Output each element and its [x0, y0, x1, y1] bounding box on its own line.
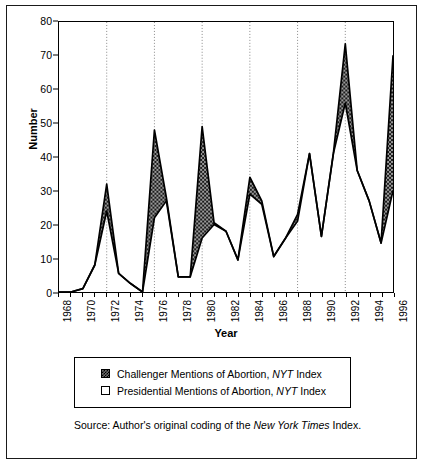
x-tick-mark-1974: [130, 293, 131, 297]
x-tick-mark-1992: [346, 293, 347, 297]
y-tick-label-50: 50: [28, 117, 52, 129]
chart-legend: Challenger Mentions of Abortion, NYT Ind…: [74, 357, 351, 408]
legend-label-challenger-post: Index: [293, 368, 322, 380]
legend-item-challenger: Challenger Mentions of Abortion, NYT Ind…: [75, 365, 350, 382]
x-tick-mark-1985: [262, 293, 263, 297]
x-tick-label-1974: 1974: [134, 300, 145, 322]
chart-block: Number 010203040506: [6, 5, 417, 350]
y-tick-label-20: 20: [28, 219, 52, 231]
x-tick-mark-1977: [166, 293, 167, 297]
x-tick-label-1994: 1994: [374, 300, 385, 322]
x-tick-mark-1979: [190, 293, 191, 297]
legend-label-presidential-post: Index: [297, 385, 326, 397]
chart-svg: [59, 22, 393, 292]
legend-swatch-filled-square-icon: [101, 369, 110, 378]
x-tick-mark-1989: [310, 293, 311, 297]
legend-label-presidential-em: NYT: [276, 385, 297, 397]
source-note-pre: Source: Author's original coding of the: [74, 419, 253, 431]
x-tick-mark-1986: [274, 293, 275, 297]
legend-label-presidential: Presidential Mentions of Abortion, NYT I…: [117, 385, 326, 397]
y-tick-mark-40: [53, 157, 58, 158]
x-tick-label-1972: 1972: [110, 300, 121, 322]
figure-container: Number 010203040506: [0, 0, 424, 466]
y-tick-label-30: 30: [28, 185, 52, 197]
x-tick-mark-1983: [238, 293, 239, 297]
y-tick-mark-80: [53, 21, 58, 22]
legend-item-presidential: Presidential Mentions of Abortion, NYT I…: [75, 382, 350, 399]
x-tick-mark-1969: [70, 293, 71, 297]
x-tick-mark-1981: [214, 293, 215, 297]
x-tick-label-1986: 1986: [278, 300, 289, 322]
y-tick-label-60: 60: [28, 83, 52, 95]
y-tick-mark-60: [53, 89, 58, 90]
x-tick-mark-1973: [118, 293, 119, 297]
x-tick-mark-1968: [58, 293, 59, 297]
x-tick-mark-1980: [202, 293, 203, 297]
x-tick-label-1976: 1976: [158, 300, 169, 322]
legend-label-challenger: Challenger Mentions of Abortion, NYT Ind…: [117, 368, 322, 380]
x-tick-label-1990: 1990: [326, 300, 337, 322]
y-tick-label-80: 80: [28, 15, 52, 27]
x-tick-mark-1975: [142, 293, 143, 297]
x-tick-mark-1993: [358, 293, 359, 297]
y-tick-mark-50: [53, 123, 58, 124]
source-note-em: New York Times: [253, 419, 329, 431]
x-tick-mark-1995: [382, 293, 383, 297]
x-tick-mark-1987: [286, 293, 287, 297]
x-tick-mark-1988: [298, 293, 299, 297]
x-tick-mark-1996: [394, 293, 395, 297]
x-tick-mark-1978: [178, 293, 179, 297]
x-tick-label-1984: 1984: [254, 300, 265, 322]
y-tick-label-0: 0: [28, 287, 52, 299]
x-tick-label-1988: 1988: [302, 300, 313, 322]
x-tick-label-1982: 1982: [230, 300, 241, 322]
x-tick-mark-1991: [334, 293, 335, 297]
x-tick-mark-1970: [82, 293, 83, 297]
x-tick-label-1992: 1992: [350, 300, 361, 322]
legend-label-presidential-pre: Presidential Mentions of Abortion,: [117, 385, 276, 397]
x-tick-mark-1971: [94, 293, 95, 297]
x-tick-label-1978: 1978: [182, 300, 193, 322]
y-tick-mark-10: [53, 259, 58, 260]
y-tick-label-40: 40: [28, 151, 52, 163]
y-tick-mark-70: [53, 55, 58, 56]
x-tick-label-1970: 1970: [86, 300, 97, 322]
x-tick-mark-1994: [370, 293, 371, 297]
x-tick-mark-1976: [154, 293, 155, 297]
legend-swatch-hollow-square-icon: [101, 386, 110, 395]
plot-area: [58, 21, 394, 293]
x-tick-label-1996: 1996: [398, 300, 409, 322]
y-tick-mark-30: [53, 191, 58, 192]
series-fill-band: [59, 44, 393, 292]
x-tick-mark-1982: [226, 293, 227, 297]
y-tick-label-10: 10: [28, 253, 52, 265]
y-tick-label-70: 70: [28, 49, 52, 61]
x-tick-label-1980: 1980: [206, 300, 217, 322]
plot-area-wrapper: 01020304050607080 1968197019721974197619…: [58, 21, 394, 293]
x-tick-mark-1990: [322, 293, 323, 297]
x-axis-label: Year: [58, 327, 394, 339]
y-tick-mark-20: [53, 225, 58, 226]
x-tick-mark-1972: [106, 293, 107, 297]
x-tick-mark-1984: [250, 293, 251, 297]
source-note-post: Index.: [330, 419, 362, 431]
source-note: Source: Author's original coding of the …: [74, 418, 364, 432]
legend-label-challenger-em: NYT: [272, 368, 293, 380]
x-tick-label-1968: 1968: [62, 300, 73, 322]
legend-label-challenger-pre: Challenger Mentions of Abortion,: [117, 368, 272, 380]
